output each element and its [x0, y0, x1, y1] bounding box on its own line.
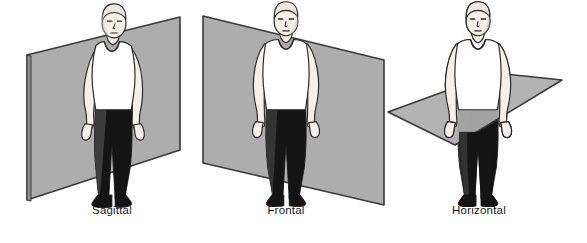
anatomical-planes-figure: Sagittal Frontal: [0, 0, 587, 243]
figure-canvas: Sagittal Frontal: [0, 0, 587, 243]
sagittal-plane-edge: [27, 55, 31, 201]
caption-horizontal: Horizontal: [452, 204, 506, 216]
caption-frontal: Frontal: [267, 204, 304, 216]
caption-sagittal: Sagittal: [92, 204, 132, 216]
